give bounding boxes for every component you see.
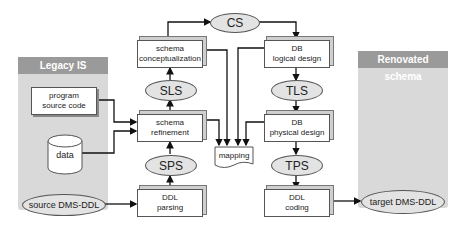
source-dms-ddl: source DMS-DDL bbox=[22, 194, 106, 216]
program-source-code: program source code bbox=[31, 87, 97, 115]
schema-conceptualization-box: schema conceptualization bbox=[137, 40, 203, 68]
db-physical-design-box: DB physical design bbox=[264, 114, 330, 142]
ddl-parsing-box: DDL parsing bbox=[137, 189, 203, 217]
ddl-coding-box: DDL coding bbox=[264, 189, 330, 217]
tps-ellipse: TPS bbox=[271, 155, 323, 176]
sps-ellipse: SPS bbox=[145, 155, 197, 176]
db-logical-design-box: DB logical design bbox=[264, 40, 330, 68]
target-dms-ddl: target DMS-DDL bbox=[361, 190, 445, 214]
sls-ellipse: SLS bbox=[145, 80, 197, 101]
tls-ellipse: TLS bbox=[271, 80, 323, 101]
mapping-label: mapping bbox=[214, 151, 254, 160]
cs-ellipse: CS bbox=[210, 13, 260, 33]
data-label: data bbox=[47, 150, 83, 160]
schema-refinement-box: schema refinement bbox=[137, 114, 203, 142]
